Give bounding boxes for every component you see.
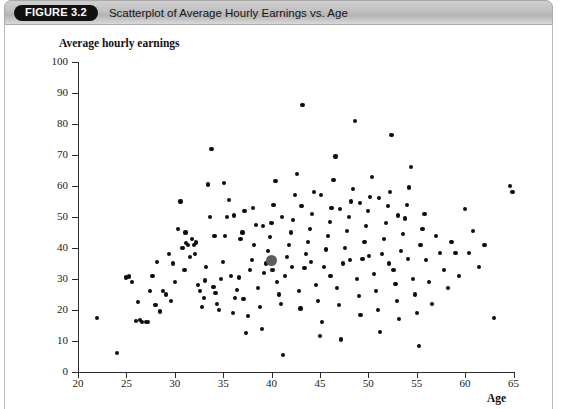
x-tick-label-35: 35 — [208, 377, 238, 389]
data-point — [320, 320, 324, 324]
data-point — [391, 268, 395, 272]
data-point — [442, 268, 446, 272]
y-tick-90 — [72, 93, 78, 94]
data-point — [430, 302, 434, 306]
data-point — [376, 308, 380, 312]
data-point — [251, 206, 255, 210]
data-point — [341, 261, 345, 265]
data-point — [182, 268, 186, 272]
data-point — [258, 305, 262, 309]
data-point — [413, 292, 417, 296]
data-point — [215, 302, 219, 306]
data-point — [367, 254, 371, 258]
y-tick-label-100: 100 — [42, 55, 68, 67]
data-point — [124, 275, 128, 279]
data-point — [366, 209, 370, 213]
data-point — [304, 252, 308, 256]
data-point — [193, 252, 197, 256]
data-point — [446, 286, 450, 290]
data-point — [482, 243, 486, 247]
data-point — [348, 258, 352, 262]
x-tick-label-30: 30 — [160, 377, 190, 389]
data-point — [415, 311, 419, 315]
data-point — [358, 313, 362, 317]
data-point — [209, 147, 213, 151]
data-point — [217, 308, 221, 312]
data-point — [338, 207, 342, 211]
data-point — [393, 282, 397, 286]
data-point — [372, 272, 376, 276]
data-point — [238, 237, 242, 241]
data-point — [457, 274, 461, 278]
data-point — [262, 271, 266, 275]
data-point — [237, 275, 241, 279]
data-point — [328, 220, 332, 224]
data-point — [169, 299, 173, 303]
x-tick-label-55: 55 — [402, 377, 432, 389]
data-point — [368, 195, 372, 199]
data-point — [261, 224, 265, 228]
data-point — [380, 252, 384, 256]
y-tick-label-60: 60 — [42, 179, 68, 191]
data-point — [319, 193, 323, 197]
data-point — [335, 286, 339, 290]
y-tick-label-80: 80 — [42, 117, 68, 129]
data-point — [204, 265, 208, 269]
data-point — [434, 234, 438, 238]
data-point — [285, 255, 289, 259]
data-point — [349, 199, 353, 203]
y-tick-50 — [72, 217, 78, 218]
y-tick-label-40: 40 — [42, 241, 68, 253]
data-point — [427, 280, 431, 284]
data-point — [295, 172, 299, 176]
data-point — [399, 249, 403, 253]
data-point — [297, 289, 301, 293]
data-point — [401, 232, 405, 236]
data-point — [130, 280, 134, 284]
data-point — [396, 213, 400, 217]
data-point — [328, 274, 332, 278]
data-point — [248, 268, 252, 272]
data-point — [508, 184, 512, 188]
data-point — [222, 181, 226, 185]
data-point — [194, 240, 198, 244]
data-point — [225, 215, 229, 219]
y-tick-80 — [72, 124, 78, 125]
data-point — [471, 229, 475, 233]
data-point — [287, 243, 291, 247]
data-point — [298, 306, 302, 310]
data-point — [291, 218, 295, 222]
y-tick-label-30: 30 — [42, 272, 68, 284]
data-point — [300, 103, 304, 107]
data-point — [211, 285, 215, 289]
data-point — [289, 230, 293, 234]
data-point — [351, 187, 355, 191]
data-point — [355, 277, 359, 281]
data-point — [477, 265, 481, 269]
data-point — [411, 277, 415, 281]
data-point — [242, 209, 246, 213]
data-point — [180, 246, 184, 250]
data-point — [418, 243, 422, 247]
data-point — [136, 300, 140, 304]
data-point — [240, 230, 244, 234]
data-point — [312, 190, 316, 194]
y-tick-label-70: 70 — [42, 148, 68, 160]
data-point — [290, 265, 294, 269]
data-point — [467, 251, 471, 255]
data-point — [293, 193, 297, 197]
data-point — [250, 258, 254, 262]
data-point — [324, 247, 328, 251]
y-tick-label-20: 20 — [42, 303, 68, 315]
data-point — [268, 235, 272, 239]
data-point — [221, 260, 225, 264]
data-point — [173, 280, 177, 284]
data-point — [302, 266, 306, 270]
data-point — [388, 190, 392, 194]
y-tick-70 — [72, 155, 78, 156]
data-point — [309, 260, 313, 264]
data-point — [280, 215, 284, 219]
y-tick-label-90: 90 — [42, 86, 68, 98]
x-tick-label-60: 60 — [450, 377, 480, 389]
y-axis-line — [78, 62, 79, 373]
